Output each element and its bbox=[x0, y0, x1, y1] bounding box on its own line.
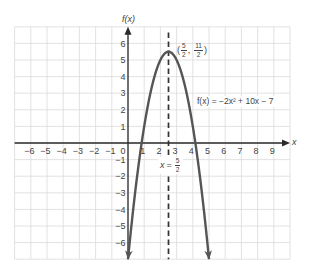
axes bbox=[15, 27, 290, 259]
symmetry-fraction: 5 2 bbox=[175, 158, 181, 173]
y-tick-label: 5 bbox=[120, 55, 125, 65]
y-tick-label: −5 bbox=[115, 221, 125, 231]
vertex-y-fraction: 11 2 bbox=[194, 43, 203, 58]
x-tick-label: 2 bbox=[156, 146, 161, 156]
x-tick-label: 5 bbox=[205, 146, 210, 156]
x-tick-label: 4 bbox=[189, 146, 194, 156]
fraction-denominator: 2 bbox=[176, 166, 180, 173]
y-tick-label: 6 bbox=[120, 39, 125, 49]
x-tick-label: −5 bbox=[40, 146, 50, 156]
y-tick-label: −2 bbox=[115, 171, 125, 181]
x-tick-label: −6 bbox=[24, 146, 34, 156]
y-tick-label: 2 bbox=[120, 105, 125, 115]
y-tick-label: −3 bbox=[115, 188, 125, 198]
x-tick-label: 3 bbox=[173, 146, 178, 156]
x-tick-label: 7 bbox=[237, 146, 242, 156]
fraction-numerator: 5 bbox=[175, 158, 181, 166]
vertex-separator: , bbox=[188, 46, 191, 55]
fraction-denominator: 2 bbox=[182, 51, 186, 58]
x-tick-label: −1 bbox=[105, 146, 115, 156]
x-tick-label: 8 bbox=[254, 146, 259, 156]
symmetry-equals: = bbox=[167, 161, 172, 170]
y-tick-label: −6 bbox=[115, 238, 125, 248]
x-axis-arrow-icon bbox=[282, 140, 290, 147]
equation-label: f(x) = −2x² + 10x − 7 bbox=[195, 96, 276, 107]
y-tick-label: 4 bbox=[120, 72, 125, 82]
x-tick-label: −3 bbox=[73, 146, 83, 156]
x-tick-label: 6 bbox=[221, 146, 226, 156]
x-tick-label: −4 bbox=[57, 146, 67, 156]
fraction-numerator: 5 bbox=[181, 43, 187, 51]
x-tick-label: 9 bbox=[270, 146, 275, 156]
parabola-chart: −6−5−4−3−2−10123456789−6−5−4−3−2−1123456 bbox=[0, 0, 313, 272]
fraction-denominator: 2 bbox=[197, 51, 201, 58]
vertex-open-paren: ( bbox=[177, 46, 180, 55]
y-tick-label: 1 bbox=[120, 122, 125, 132]
fraction-numerator: 11 bbox=[194, 43, 203, 51]
y-tick-label: −4 bbox=[115, 205, 125, 215]
y-axis-title: f(x) bbox=[122, 15, 135, 24]
y-tick-label: 3 bbox=[120, 88, 125, 98]
vertex-x-fraction: 5 2 bbox=[181, 43, 187, 58]
vertex-close-paren: ) bbox=[204, 46, 207, 55]
x-tick-label: −2 bbox=[89, 146, 99, 156]
y-tick-label: −1 bbox=[115, 155, 125, 165]
symmetry-variable: x bbox=[160, 161, 165, 170]
x-axis-title: x bbox=[292, 138, 297, 147]
y-axis-arrow-icon bbox=[125, 27, 132, 35]
vertex-label: ( 5 2 , 11 2 ) bbox=[177, 43, 207, 58]
symmetry-label: x = 5 2 bbox=[158, 157, 183, 174]
